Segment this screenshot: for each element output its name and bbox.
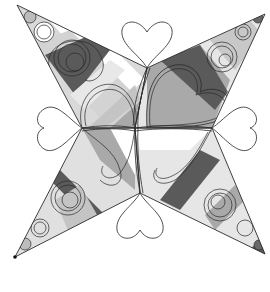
corner-marker-dot: [13, 255, 17, 259]
arm-bottom-left: [15, 128, 140, 257]
quilt-svg: [0, 0, 270, 292]
quilt-diagram: [0, 0, 270, 292]
